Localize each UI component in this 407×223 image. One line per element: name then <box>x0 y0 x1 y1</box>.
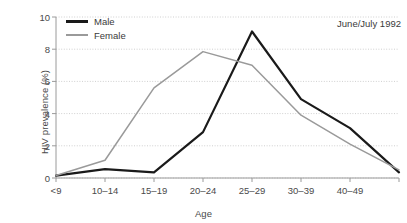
y-tick-label: 8 <box>26 44 50 55</box>
hiv-prevalence-line-chart: HIV prevalence (%) Age June/July 1992 Ma… <box>0 0 407 223</box>
x-tick-label: 10–14 <box>92 185 118 196</box>
x-tick-label: 40–49 <box>337 185 363 196</box>
y-tick-label: 10 <box>26 12 50 23</box>
y-tick-label: 6 <box>26 76 50 87</box>
gridlines <box>56 17 399 178</box>
x-tick-label: 25–29 <box>239 185 265 196</box>
y-tick-label: 4 <box>26 108 50 119</box>
x-tick-label: 20–24 <box>190 185 216 196</box>
y-tick-label: 0 <box>26 173 50 184</box>
x-tick-label: <9 <box>51 185 62 196</box>
axis-lines <box>56 17 399 178</box>
y-tick-label: 2 <box>26 140 50 151</box>
x-tick-label: 15–19 <box>141 185 167 196</box>
x-tick-label: 30–39 <box>288 185 314 196</box>
tick-marks <box>52 17 399 182</box>
series-lines <box>56 31 399 175</box>
